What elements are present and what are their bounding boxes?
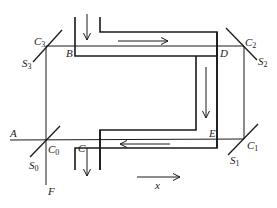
label-c: C xyxy=(78,143,85,154)
label-e: E xyxy=(209,128,216,139)
label-c0: C0 xyxy=(48,144,59,157)
label-x: x xyxy=(155,180,160,191)
label-d: D xyxy=(220,48,228,59)
light-path xyxy=(10,46,244,185)
label-c2: C2 xyxy=(245,37,256,50)
diagram-drawing xyxy=(0,0,277,208)
label-s3: S3 xyxy=(22,58,32,71)
label-s2: S2 xyxy=(258,56,268,69)
label-f: F xyxy=(48,186,55,197)
interferometer-diagram: C3 S3 B C2 S2 D E C1 S1 A C0 S0 C F x xyxy=(0,0,277,208)
label-c3: C3 xyxy=(34,36,45,49)
label-s0: S0 xyxy=(29,160,39,173)
label-a: A xyxy=(10,128,17,139)
label-b: B xyxy=(66,48,73,59)
label-c1: C1 xyxy=(247,140,258,153)
label-s1: S1 xyxy=(230,155,240,168)
water-tube xyxy=(75,17,217,170)
